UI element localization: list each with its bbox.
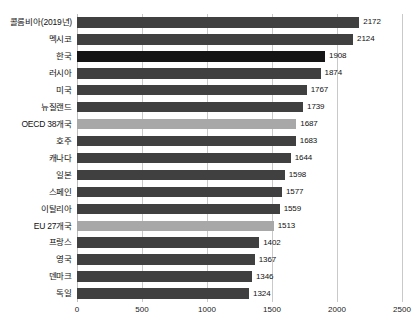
- bar: [77, 271, 252, 282]
- category-label: 캐나다: [49, 154, 72, 163]
- bar: [77, 254, 255, 265]
- bar: [77, 34, 353, 45]
- bar: [77, 221, 274, 232]
- x-tick-label: 1000: [198, 305, 216, 314]
- bar-row: 스페인1577: [77, 187, 402, 198]
- category-label: 콜롬비아(2019년): [10, 18, 72, 27]
- bar-row: 러시아1874: [77, 68, 402, 79]
- bar-row: 멕시코2124: [77, 34, 402, 45]
- bar-value-label: 1739: [307, 103, 324, 111]
- bar-value-label: 1598: [289, 171, 306, 179]
- bar: [77, 170, 285, 181]
- category-label: 독일: [56, 289, 72, 298]
- bar: [77, 153, 291, 164]
- bar: [77, 136, 296, 147]
- category-label: 멕시코: [49, 35, 72, 44]
- x-tick-label: 500: [135, 305, 148, 314]
- bar-value-label: 1644: [295, 154, 312, 162]
- category-label: 덴마크: [49, 272, 72, 281]
- bar: [77, 119, 296, 130]
- bar-row: 일본1598: [77, 170, 402, 181]
- bar: [77, 288, 249, 299]
- category-label: OECD 38개국: [21, 120, 72, 129]
- x-tick-label: 2500: [393, 305, 411, 314]
- bar-value-label: 1367: [259, 256, 276, 264]
- bar: [77, 204, 280, 215]
- bar-value-label: 1346: [256, 273, 273, 281]
- bar: [77, 17, 359, 28]
- bar-row: 미국1767: [77, 85, 402, 96]
- bar-chart: 콜롬비아(2019년)2172멕시코2124한국1908러시아1874미국176…: [0, 0, 419, 333]
- bar: [77, 187, 282, 198]
- category-label: 러시아: [49, 69, 72, 78]
- bar: [77, 102, 303, 113]
- bar-value-label: 1687: [300, 120, 317, 128]
- bar-row: EU 27개국1513: [77, 221, 402, 232]
- bar-value-label: 1577: [286, 188, 303, 196]
- bar: [77, 85, 307, 96]
- bar-value-label: 1559: [284, 205, 301, 213]
- x-tick-label: 1500: [263, 305, 281, 314]
- bar: [77, 68, 321, 79]
- bar-value-label: 2124: [357, 35, 374, 43]
- x-tick-label: 2000: [328, 305, 346, 314]
- category-label: 호주: [56, 137, 72, 146]
- bar: [77, 237, 259, 248]
- bars-layer: 콜롬비아(2019년)2172멕시코2124한국1908러시아1874미국176…: [77, 14, 402, 302]
- gridline-2500: [402, 14, 403, 302]
- category-label: 일본: [56, 171, 72, 180]
- bar-row: 콜롬비아(2019년)2172: [77, 17, 402, 28]
- bar-value-label: 1513: [278, 222, 295, 230]
- bar-row: 호주1683: [77, 136, 402, 147]
- plot-area: 콜롬비아(2019년)2172멕시코2124한국1908러시아1874미국176…: [77, 14, 402, 302]
- bar-row: 영국1367: [77, 254, 402, 265]
- bar-value-label: 1402: [263, 239, 280, 247]
- bar-row: 이탈리아1559: [77, 204, 402, 215]
- category-label: EU 27개국: [34, 222, 72, 231]
- category-label: 이탈리아: [41, 205, 72, 214]
- bar-value-label: 1324: [253, 290, 270, 298]
- bar-value-label: 1683: [300, 137, 317, 145]
- category-label: 프랑스: [49, 238, 72, 247]
- category-label: 영국: [56, 255, 72, 264]
- bar-row: 뉴질랜드1739: [77, 102, 402, 113]
- bar-value-label: 2172: [363, 18, 380, 26]
- bar-row: 프랑스1402: [77, 237, 402, 248]
- bar-value-label: 1874: [325, 69, 342, 77]
- category-label: 미국: [56, 86, 72, 95]
- category-label: 뉴질랜드: [41, 103, 72, 112]
- bar: [77, 51, 325, 62]
- category-label: 한국: [56, 52, 72, 61]
- bar-value-label: 1767: [311, 86, 328, 94]
- bar-row: OECD 38개국1687: [77, 119, 402, 130]
- x-tick-label: 0: [75, 305, 79, 314]
- bar-row: 독일1324: [77, 288, 402, 299]
- bar-row: 한국1908: [77, 51, 402, 62]
- category-label: 스페인: [49, 188, 72, 197]
- bar-row: 덴마크1346: [77, 271, 402, 282]
- bar-row: 캐나다1644: [77, 153, 402, 164]
- x-axis: 05001000150020002500: [77, 302, 402, 322]
- bar-value-label: 1908: [329, 52, 346, 60]
